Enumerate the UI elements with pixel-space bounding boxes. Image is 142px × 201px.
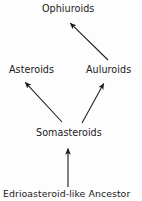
node-label-somasteroids: Somasteroids [36,127,102,138]
arrow-layer [0,0,142,201]
phylogeny-diagram: Ophiuroids Asteroids Auluroids Somastero… [0,0,142,201]
node-label-auluroids: Auluroids [86,64,131,75]
arrow-auluroids-to-ophiuroids [70,23,108,60]
node-label-ancestor: Edrioasteroid-like Ancestor [3,188,130,199]
node-label-ophiuroids: Ophiuroids [42,3,94,14]
node-label-asteroids: Asteroids [9,64,54,75]
arrow-somasteroids-to-auluroids [82,84,104,124]
arrow-somasteroids-to-asteroids [25,82,62,122]
